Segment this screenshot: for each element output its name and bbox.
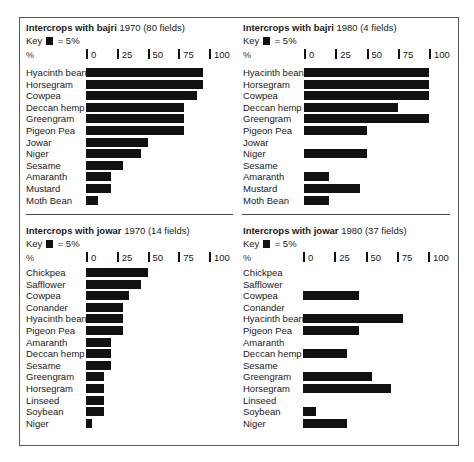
bar-row: Cowpea bbox=[26, 90, 246, 101]
crop-label: Hyacinth bean bbox=[26, 313, 87, 324]
crop-label: Horsegram bbox=[26, 383, 73, 394]
crop-label: Greengram bbox=[26, 371, 74, 382]
crop-label: Amaranth bbox=[243, 171, 284, 182]
bar-row: Deccan hemp bbox=[243, 102, 463, 113]
bar-row: Horsegram bbox=[26, 383, 246, 394]
axis-tick-25: 25 bbox=[334, 252, 350, 263]
bar-row: Mustard bbox=[26, 183, 246, 194]
bar bbox=[304, 114, 429, 123]
tick-label: 100 bbox=[214, 49, 230, 60]
crop-label: Greengram bbox=[26, 113, 74, 124]
bar-row: Amaranth bbox=[26, 171, 246, 182]
bar-row: Linseed bbox=[26, 395, 246, 406]
tick-mark-icon bbox=[148, 49, 150, 59]
bar bbox=[86, 372, 104, 381]
tick-mark-icon bbox=[334, 252, 336, 262]
tick-mark-icon bbox=[398, 49, 400, 59]
key-label: Key bbox=[243, 35, 259, 46]
crop-label: Amaranth bbox=[26, 171, 67, 182]
crop-label: Niger bbox=[243, 148, 266, 159]
crop-label: Chickpea bbox=[26, 267, 66, 278]
tick-mark-icon bbox=[117, 49, 119, 59]
axis-tick-100: 100 bbox=[209, 252, 230, 263]
crop-label: Jowar bbox=[26, 137, 51, 148]
crop-label: Niger bbox=[26, 148, 49, 159]
tick-label: 75 bbox=[183, 252, 194, 263]
axis-tick-50: 50 bbox=[366, 252, 382, 263]
bar-row: Jowar bbox=[26, 137, 246, 148]
bar-row: Soybean bbox=[243, 406, 463, 417]
tick-mark-icon bbox=[304, 49, 306, 59]
bar-row: Sesame bbox=[26, 160, 246, 171]
bar-row: Greengram bbox=[26, 113, 246, 124]
panel-title-bold: Intercrops with bajri bbox=[26, 22, 117, 33]
tick-mark-icon bbox=[209, 49, 211, 59]
bar-row: Pigeon Pea bbox=[243, 125, 463, 136]
crop-label: Horsegram bbox=[243, 383, 290, 394]
bar-row: Conander bbox=[26, 302, 246, 313]
bar-row: Niger bbox=[26, 418, 246, 429]
bar bbox=[86, 396, 104, 405]
axis-tick-75: 75 bbox=[398, 49, 414, 60]
bar-row: Pigeon Pea bbox=[26, 325, 246, 336]
panel-title-detail: 1970 (14 fields) bbox=[122, 225, 190, 236]
bar-row: Cowpea bbox=[26, 290, 246, 301]
bar bbox=[86, 280, 141, 289]
bar-row: Sesame bbox=[26, 360, 246, 371]
key-square-icon bbox=[46, 37, 53, 45]
crop-label: Greengram bbox=[243, 371, 291, 382]
bar bbox=[303, 419, 347, 428]
crop-label: Jowar bbox=[243, 137, 268, 148]
crop-label: Sesame bbox=[243, 360, 278, 371]
bar bbox=[303, 326, 359, 335]
bar-row: Safflower bbox=[26, 279, 246, 290]
axis-unit-label: % bbox=[26, 253, 34, 263]
bar-row: Amaranth bbox=[26, 337, 246, 348]
bar-row: Linseed bbox=[243, 395, 463, 406]
bar bbox=[303, 349, 347, 358]
tick-mark-icon bbox=[209, 252, 211, 262]
crop-label: Pigeon Pea bbox=[243, 125, 292, 136]
bar bbox=[304, 172, 329, 181]
tick-label: 100 bbox=[434, 49, 450, 60]
tick-label: 50 bbox=[372, 49, 383, 60]
axis-tick-75: 75 bbox=[178, 49, 194, 60]
crop-label: Hyacinth bean bbox=[26, 67, 87, 78]
tick-label: 0 bbox=[308, 252, 313, 263]
bar bbox=[86, 338, 111, 347]
bar bbox=[86, 126, 184, 135]
axis-tick-25: 25 bbox=[117, 252, 133, 263]
crop-label: Pigeon Pea bbox=[243, 325, 292, 336]
tick-label: 25 bbox=[340, 49, 351, 60]
bar-row: Amaranth bbox=[243, 337, 463, 348]
crop-label: Conander bbox=[26, 302, 68, 313]
key-square-icon bbox=[263, 37, 270, 45]
axis-tick-0: 0 bbox=[86, 252, 96, 263]
crop-label: Horsegram bbox=[243, 79, 290, 90]
crop-label: Hyacinth bean bbox=[243, 313, 304, 324]
bar bbox=[86, 149, 141, 158]
tick-mark-icon bbox=[117, 252, 119, 262]
bar bbox=[86, 172, 111, 181]
axis-tick-50: 50 bbox=[148, 252, 164, 263]
tick-label: 75 bbox=[402, 252, 413, 263]
bar bbox=[86, 349, 111, 358]
bar-row: Hyacinth bean bbox=[26, 313, 246, 324]
tick-label: 50 bbox=[153, 252, 164, 263]
bar-row: Chickpea bbox=[243, 267, 463, 278]
crop-label: Pigeon Pea bbox=[26, 125, 75, 136]
axis-tick-0: 0 bbox=[86, 49, 96, 60]
axis-tick-25: 25 bbox=[335, 49, 351, 60]
tick-mark-icon bbox=[335, 49, 337, 59]
tick-label: 50 bbox=[371, 252, 382, 263]
tick-mark-icon bbox=[178, 252, 180, 262]
bar bbox=[303, 314, 403, 323]
axis-tick-75: 75 bbox=[397, 252, 413, 263]
bar bbox=[304, 68, 429, 77]
bar-row: Deccan hemp bbox=[26, 348, 246, 359]
tick-mark-icon bbox=[429, 49, 431, 59]
bar bbox=[86, 384, 104, 393]
bar-row: Chickpea bbox=[26, 267, 246, 278]
crop-label: Conander bbox=[243, 302, 285, 313]
crop-label: Cowpea bbox=[26, 90, 61, 101]
